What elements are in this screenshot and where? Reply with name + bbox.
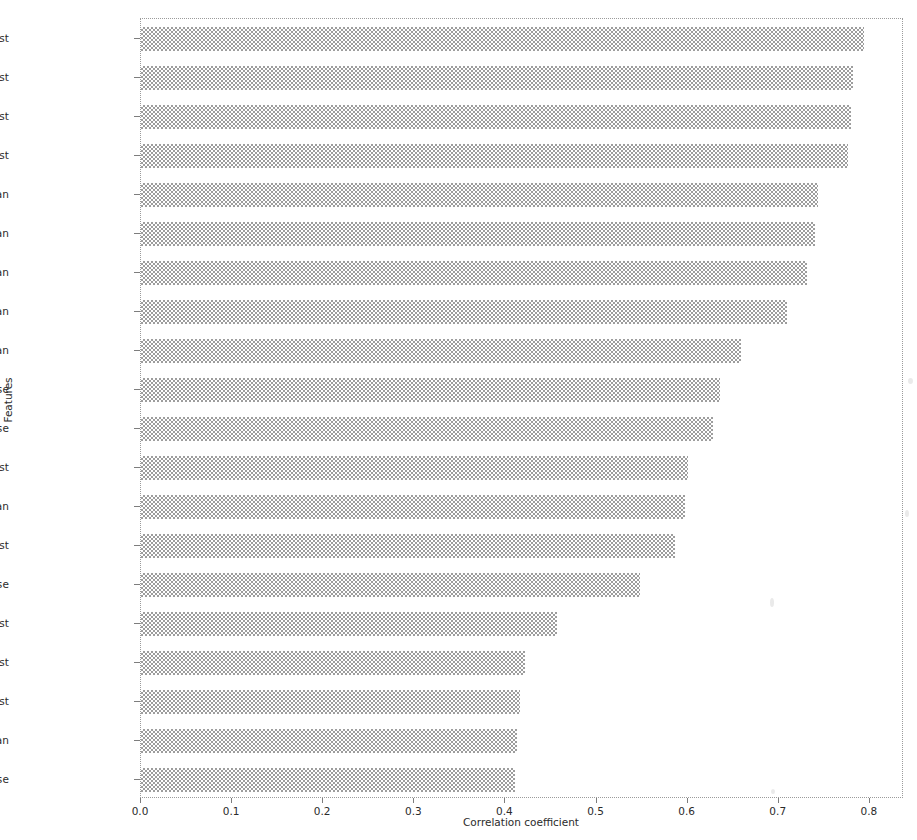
x-axis-tick-mark bbox=[687, 798, 688, 803]
plot-area bbox=[140, 18, 903, 798]
y-axis-tick-label: radius_mean bbox=[0, 266, 9, 278]
bar-row bbox=[141, 144, 904, 168]
bar bbox=[141, 456, 688, 480]
bar-row bbox=[141, 378, 904, 402]
bar-row bbox=[141, 105, 904, 129]
y-axis-tick-label: perimeter_worst bbox=[0, 110, 9, 122]
bar-row bbox=[141, 534, 904, 558]
x-axis-tick-label: 0.8 bbox=[860, 805, 877, 817]
bar bbox=[141, 534, 675, 558]
bar bbox=[141, 651, 525, 675]
scan-speckle bbox=[771, 789, 775, 794]
x-axis-tick-label: 0.1 bbox=[223, 805, 240, 817]
bar-row bbox=[141, 66, 904, 90]
x-axis-tick-label: 0.3 bbox=[405, 805, 422, 817]
bar-row bbox=[141, 651, 904, 675]
bar bbox=[141, 183, 818, 207]
x-axis-tick-mark bbox=[413, 798, 414, 803]
bar-row bbox=[141, 573, 904, 597]
y-axis-tick-label: perimeter_se bbox=[0, 383, 9, 395]
bar-row bbox=[141, 729, 904, 753]
x-axis-tick-mark bbox=[504, 798, 505, 803]
y-axis-tick-label: compactness_mean bbox=[0, 500, 9, 512]
x-axis-label: Correlation coefficient bbox=[463, 816, 579, 828]
y-axis-tick-label: texture_worst bbox=[0, 617, 9, 629]
bar-row bbox=[141, 339, 904, 363]
y-axis-tick-label: concavity_mean bbox=[0, 344, 9, 356]
x-axis-tick-label: 0.7 bbox=[769, 805, 786, 817]
y-axis-tick-label: area_worst bbox=[0, 71, 9, 83]
bar bbox=[141, 729, 517, 753]
x-axis-tick-mark bbox=[596, 798, 597, 803]
bar-row bbox=[141, 261, 904, 285]
bar bbox=[141, 261, 807, 285]
y-axis-tick-label: cencave points_mean bbox=[0, 227, 9, 239]
bar bbox=[141, 690, 520, 714]
figure-canvas: Features concave points_worstarea_worstp… bbox=[0, 0, 917, 840]
bar-row bbox=[141, 768, 904, 792]
y-axis-tick-label: concave points_worst bbox=[0, 32, 9, 44]
y-axis-tick-label: concavity_worst bbox=[0, 461, 9, 473]
bar-row bbox=[141, 612, 904, 636]
y-axis-tick-label: compactness_worst bbox=[0, 539, 9, 551]
y-axis-tick-label: smoothness_worst bbox=[0, 656, 9, 668]
x-axis-tick-label: 0.5 bbox=[587, 805, 604, 817]
bar bbox=[141, 378, 720, 402]
bar-row bbox=[141, 417, 904, 441]
bar bbox=[141, 612, 557, 636]
y-axis-tick-label: perimeter_mean bbox=[0, 188, 9, 200]
x-axis-tick-label: 0.6 bbox=[678, 805, 695, 817]
bar-row bbox=[141, 222, 904, 246]
bar-row bbox=[141, 183, 904, 207]
x-axis-tick-label: 0.2 bbox=[314, 805, 331, 817]
x-axis-tick-mark bbox=[322, 798, 323, 803]
bar-row bbox=[141, 27, 904, 51]
scan-speckle bbox=[905, 510, 909, 517]
y-axis-tick-label: radius_se bbox=[0, 422, 9, 434]
bar bbox=[141, 66, 853, 90]
x-axis-tick-mark bbox=[140, 798, 141, 803]
bar-row bbox=[141, 456, 904, 480]
bar bbox=[141, 573, 640, 597]
bar bbox=[141, 339, 741, 363]
x-axis-tick-mark bbox=[869, 798, 870, 803]
bar-row bbox=[141, 690, 904, 714]
bar-row bbox=[141, 300, 904, 324]
x-axis-tick-mark bbox=[778, 798, 779, 803]
bar bbox=[141, 300, 787, 324]
x-axis-tick-label: 0.0 bbox=[132, 805, 149, 817]
bar bbox=[141, 495, 685, 519]
y-axis-tick-label: area_se bbox=[0, 578, 9, 590]
scan-speckle bbox=[908, 378, 913, 384]
x-axis-tick-mark bbox=[231, 798, 232, 803]
bar bbox=[141, 222, 815, 246]
bar bbox=[141, 768, 515, 792]
bar bbox=[141, 417, 713, 441]
y-axis-tick-label: radius_worst bbox=[0, 149, 9, 161]
bar bbox=[141, 105, 851, 129]
bar bbox=[141, 27, 864, 51]
bar-row bbox=[141, 495, 904, 519]
y-axis-tick-label: symmetry_worst bbox=[0, 695, 9, 707]
scan-speckle bbox=[770, 598, 774, 607]
bar bbox=[141, 144, 848, 168]
y-axis-tick-label: area_mean bbox=[0, 305, 9, 317]
y-axis-tick-label: concavity_se bbox=[0, 773, 9, 785]
y-axis-tick-label: texture_mean bbox=[0, 734, 9, 746]
